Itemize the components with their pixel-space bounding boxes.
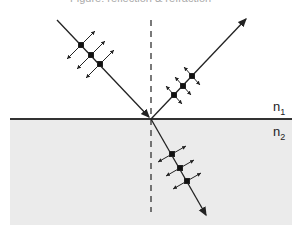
label-n2: n2 bbox=[273, 124, 285, 142]
incident-ray bbox=[57, 20, 149, 117]
reflected-ray bbox=[151, 19, 246, 119]
label-n1: n1 bbox=[273, 99, 285, 117]
reflection-refraction-diagram bbox=[0, 0, 302, 231]
